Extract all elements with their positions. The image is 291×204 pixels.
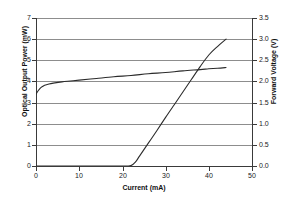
y-axis-right-ticklabel: 0.0 [259, 162, 281, 170]
x-axis-ticklabel: 40 [199, 172, 219, 180]
x-axis-ticklabel: 0 [26, 172, 46, 180]
x-axis-ticklabel: 50 [242, 172, 262, 180]
y-axis-left-title: Optical Output Power (mW) [21, 2, 28, 142]
y-axis-right-tick [253, 145, 257, 146]
x-axis-tick [209, 167, 210, 171]
x-axis-line [36, 166, 253, 167]
chart-container: 7 6 5 4 3 2 1 0 3.5 3.0 2.5 2.0 1.5 1.0 … [0, 0, 291, 204]
y-axis-right-tick [253, 124, 257, 125]
x-axis-tick [123, 167, 124, 171]
x-axis-tick [36, 167, 37, 171]
x-axis-tick [252, 167, 253, 171]
x-axis-ticklabel: 30 [156, 172, 176, 180]
y-axis-right-tick [253, 81, 257, 82]
y-axis-right-title: Forward Voltage (V) [270, 2, 277, 142]
y-axis-right-tick [253, 166, 257, 167]
x-axis-tick [166, 167, 167, 171]
x-axis-ticklabel: 10 [69, 172, 89, 180]
x-axis-tick [79, 167, 80, 171]
series-optical-output-power-line [36, 39, 226, 166]
y-axis-left-ticklabel: 1 [9, 141, 31, 149]
x-axis-title: Current (mA) [36, 184, 252, 191]
curves-layer [36, 18, 252, 166]
y-axis-right-line [252, 18, 253, 166]
y-axis-right-tick [253, 18, 257, 19]
y-axis-right-tick [253, 60, 257, 61]
y-axis-right-ticklabel: 0.5 [259, 141, 281, 149]
series-forward-voltage-line [36, 67, 226, 94]
y-axis-right-tick [253, 103, 257, 104]
y-axis-left-ticklabel: 0 [9, 162, 31, 170]
y-axis-right-tick [253, 39, 257, 40]
x-axis-ticklabel: 20 [113, 172, 133, 180]
